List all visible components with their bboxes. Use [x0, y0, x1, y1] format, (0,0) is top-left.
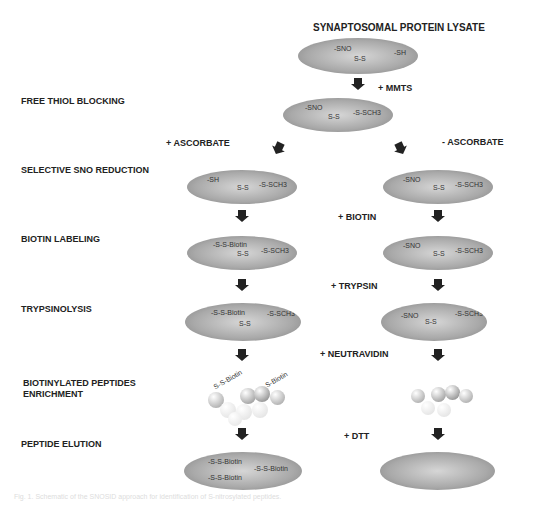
protein-ellipse-lysate: -SNO S-S -SH: [298, 38, 418, 74]
neutravidin-beads-right: [405, 375, 485, 425]
protein-ellipse-left-elution: -S-S-Biotin -S-S-Biotin -S-S-Biotin: [184, 452, 302, 490]
protein-ellipse-left-biotin: -S-S-Biotin S-S -S-SCH3: [187, 236, 297, 270]
diagram-title: SYNAPTOSOMAL PROTEIN LYSATE: [313, 22, 485, 33]
protein-ellipse-right-trypsin: -SNO S-S -S-SCH3: [381, 303, 487, 341]
step-free-thiol-blocking: FREE THIOL BLOCKING: [21, 96, 125, 107]
figure-caption: Fig. 1. Schematic of the SNOSID approach…: [14, 493, 281, 500]
protein-ellipse-left-reduced: -SH S-S -S-SCH3: [187, 170, 297, 204]
step-biotin-labeling: BIOTIN LABELING: [21, 234, 100, 245]
protein-ellipse-right-biotin: -SNO S-S -S-SCH3: [383, 236, 493, 270]
reagent-minus-ascorbate: - ASCORBATE: [442, 137, 504, 147]
neutravidin-beads-left: S-S-Biotin S-Biotin: [200, 368, 300, 428]
reagent-biotin: + BIOTIN: [338, 212, 376, 222]
protein-ellipse-right-reduced: -SNO S-S -S-SCH3: [383, 170, 493, 204]
reagent-trypsin: + TRYPSIN: [331, 281, 377, 291]
reagent-dtt: + DTT: [344, 431, 369, 441]
reagent-plus-ascorbate: + ASCORBATE: [166, 138, 230, 148]
protein-ellipse-left-trypsin: -S-S-Biotin S-S -S-SCH3: [185, 303, 301, 341]
step-peptide-elution: PEPTIDE ELUTION: [21, 439, 102, 450]
step-enrichment: BIOTINYLATED PEPTIDES ENRICHMENT: [23, 378, 136, 400]
step-sno-reduction: SELECTIVE SNO REDUCTION: [21, 165, 149, 176]
empty-ellipse-right-elution: [380, 452, 495, 490]
step-trypsinolysis: TRYPSINOLYSIS: [21, 304, 92, 315]
reagent-neutravidin: + NEUTRAVIDIN: [320, 349, 389, 359]
protein-ellipse-blocked: -SNO S-S -S-SCH3: [283, 98, 393, 132]
reagent-mmts: + MMTS: [378, 83, 412, 93]
